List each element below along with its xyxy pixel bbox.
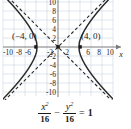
x-tick-label: -10 — [3, 48, 13, 57]
y-tick-label: 10 — [49, 0, 57, 7]
minus-operator: − — [54, 108, 60, 118]
x-tick-label: -6 — [25, 48, 31, 57]
y-tick-label: -2 — [50, 52, 56, 61]
x-tick-label: 2 — [65, 48, 69, 57]
graph-plot-area: (−4, 0) (4, 0) -10 -8 -6 -2 2 6 8 10 10 … — [0, 0, 131, 100]
point-label-right-vertex: (4, 0) — [81, 31, 101, 41]
point-label-left-vertex: (−4, 0) — [12, 31, 37, 41]
origin-marker — [56, 45, 59, 48]
hyperbola-figure: (−4, 0) (4, 0) -10 -8 -6 -2 2 6 8 10 10 … — [0, 0, 131, 129]
y-tick-label: 8 — [52, 7, 56, 16]
y-tick-label: -4 — [50, 61, 56, 70]
y-tick-label: 4 — [52, 25, 56, 34]
y-tick-label: 2 — [52, 34, 56, 43]
y-exponent: 2 — [70, 101, 73, 107]
y-tick-label: 6 — [52, 16, 56, 25]
vertex-marker-right — [78, 45, 81, 48]
y-term-fraction: y2 16 — [63, 101, 76, 124]
y-tick-label: -8 — [50, 79, 56, 88]
y-tick-label: -10 — [46, 88, 56, 97]
equals-sign: = — [79, 108, 85, 118]
y-tick-label: -6 — [50, 70, 56, 79]
equation-right-side: 1 — [88, 108, 93, 118]
x-term-denominator: 16 — [38, 114, 51, 124]
equation-caption: x2 16 − y2 16 = 1 — [0, 101, 131, 124]
x-axis-arrow — [116, 45, 121, 50]
y-term-numerator: y2 — [64, 101, 75, 113]
y-term-denominator: 16 — [63, 114, 76, 124]
x-tick-label: 10 — [106, 48, 114, 57]
x-tick-label: 6 — [86, 48, 90, 57]
graph-svg: (−4, 0) (4, 0) -10 -8 -6 -2 2 6 8 10 10 … — [0, 0, 131, 100]
x-axis-label: x — [118, 50, 123, 59]
x-tick-label: -8 — [16, 48, 22, 57]
vertex-marker-left — [34, 45, 37, 48]
x-term-numerator: x2 — [39, 101, 50, 113]
x-term-fraction: x2 16 — [38, 101, 51, 124]
x-tick-label: 8 — [97, 48, 101, 57]
equation-row: x2 16 − y2 16 = 1 — [38, 101, 92, 124]
x-exponent: 2 — [46, 101, 49, 107]
